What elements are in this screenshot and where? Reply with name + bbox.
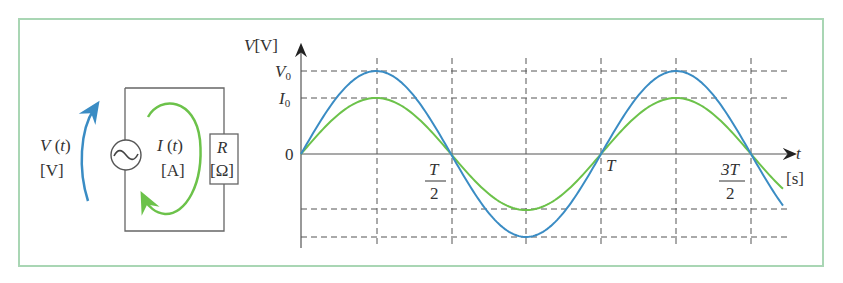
t-label: T — [606, 156, 617, 175]
resistor-unit: [Ω] — [210, 161, 234, 180]
circuit: V (t) [V] I (t) [A] R [Ω] — [40, 88, 238, 231]
diagram-canvas: V (t) [V] I (t) [A] R [Ω] V[V] V0 I0 — [0, 0, 843, 283]
voltage-label: V (t) — [40, 136, 71, 155]
voltage-arrow-icon — [82, 109, 94, 201]
grid-lines — [301, 58, 790, 248]
v0-label: V0 — [275, 62, 291, 82]
current-unit: [A] — [161, 161, 185, 180]
x-axis-unit: [s] — [786, 169, 804, 188]
y-axis-label: V[V] — [244, 36, 278, 55]
resistor-label: R — [216, 138, 228, 157]
voltage-unit: [V] — [40, 161, 64, 180]
x-axis-label: t — [796, 144, 802, 163]
t-half-denominator: 2 — [430, 184, 439, 203]
i0-label: I0 — [278, 89, 291, 109]
t-half-numerator: T — [429, 160, 440, 179]
current-arrow-icon — [145, 103, 201, 214]
origin-label: 0 — [285, 145, 294, 164]
t-3half-numerator: 3T — [720, 160, 741, 179]
current-label: I (t) — [156, 136, 183, 155]
t-3half-denominator: 2 — [726, 184, 735, 203]
waveform-chart: V[V] V0 I0 0 T 2 T 3T 2 t [s] — [244, 36, 804, 248]
